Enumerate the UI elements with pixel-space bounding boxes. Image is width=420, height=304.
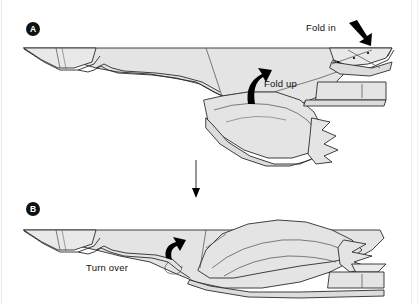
panel-b-right-rect-flap: [328, 272, 384, 288]
panel-b-hump: [198, 220, 362, 278]
panel-b-badge: B: [26, 202, 40, 216]
diagram-canvas: A B Fold in Fold up Turn over: [0, 0, 420, 304]
panel-a-illustration: [24, 20, 394, 166]
panel-b-right-small-flap: [352, 264, 386, 272]
fold-in-arrow-icon: [349, 20, 372, 46]
panel-a-foldin-dot-1: [337, 61, 339, 63]
turn-over-label: Turn over: [86, 262, 128, 273]
panel-b-illustration: [24, 220, 386, 298]
panel-a-right-rect-flap: [316, 82, 386, 100]
panel-a-badge: A: [26, 22, 40, 36]
panel-a-claw-serration: [308, 118, 338, 164]
panel-a-right-rect-underlayer: [304, 100, 386, 106]
panel-a-foldin-dot-3: [367, 52, 369, 54]
origami-illustration: [0, 0, 420, 304]
fold-up-label: Fold up: [264, 78, 297, 89]
fold-in-label: Fold in: [306, 22, 336, 33]
step-connector-arrow: [192, 160, 200, 198]
panel-a-foldin-dot-2: [353, 57, 355, 59]
